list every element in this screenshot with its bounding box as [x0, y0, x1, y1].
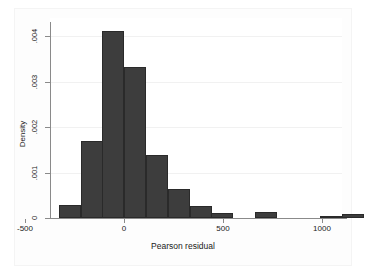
y-axis-tick-label: .004	[24, 31, 44, 41]
y-axis-title-label: Density	[18, 121, 27, 148]
histogram-bar	[59, 205, 81, 218]
x-axis-tick-label: 0	[122, 224, 126, 233]
y-axis-tick-label: 0	[24, 213, 44, 223]
gridline	[51, 127, 342, 128]
gridline	[51, 82, 342, 83]
histogram-bar	[102, 31, 124, 218]
histogram-bar	[146, 155, 168, 218]
y-axis-tick	[45, 82, 50, 83]
x-axis-title: Pearson residual	[0, 241, 366, 251]
y-axis-tick-label: .002	[24, 122, 44, 132]
y-axis-tick-label: .003	[24, 77, 44, 87]
histogram-bar	[124, 67, 146, 218]
y-axis-tick	[45, 36, 50, 37]
x-axis-tick	[223, 219, 224, 223]
histogram-figure: 0.001.002.003.004 -50005001000 Density P…	[0, 0, 366, 276]
y-axis-tick	[45, 173, 50, 174]
x-axis-tick	[25, 219, 26, 223]
y-axis-tick-label-text: 0	[30, 216, 39, 220]
y-axis-tick	[45, 218, 50, 219]
y-axis-tick-label-text: .004	[30, 29, 39, 44]
y-axis-tick-label-text: .002	[30, 120, 39, 135]
y-axis-tick-label: .001	[24, 168, 44, 178]
x-axis-line	[50, 218, 347, 219]
x-axis-tick-label: 500	[216, 224, 229, 233]
x-axis-title-label: Pearson residual	[151, 241, 215, 251]
histogram-bar	[168, 189, 190, 218]
histogram-bar	[190, 206, 212, 218]
x-axis-tick-label: -500	[17, 224, 33, 233]
gridline	[51, 36, 342, 37]
x-axis-tick	[124, 219, 125, 223]
y-axis-tick-label-text: .003	[30, 75, 39, 90]
y-axis-line	[50, 22, 51, 219]
x-axis-tick-label: 1000	[313, 224, 331, 233]
x-axis-tick	[322, 219, 323, 223]
y-axis-tick	[45, 127, 50, 128]
y-axis-title: Density	[17, 104, 27, 164]
histogram-bar	[81, 141, 103, 218]
y-axis-tick-label-text: .001	[30, 166, 39, 181]
